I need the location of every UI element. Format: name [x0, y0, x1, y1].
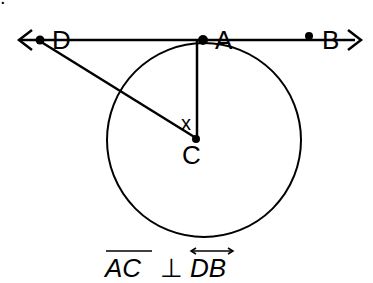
- caption-ac: AC: [103, 253, 141, 283]
- geometry-diagram: . D A B C x AC ⊥ DB: [0, 0, 373, 283]
- point-b: [305, 32, 313, 40]
- point-d: [36, 36, 45, 45]
- point-a: [198, 35, 208, 45]
- perpendicular-symbol: ⊥: [160, 253, 183, 283]
- label-b: B: [322, 25, 339, 55]
- angle-label-x: x: [181, 112, 191, 134]
- label-d: D: [52, 25, 71, 55]
- circle: [107, 43, 301, 237]
- label-a: A: [215, 25, 233, 55]
- label-c: C: [182, 140, 201, 170]
- top-fragment: .: [0, 0, 6, 8]
- caption-db: DB: [190, 253, 226, 283]
